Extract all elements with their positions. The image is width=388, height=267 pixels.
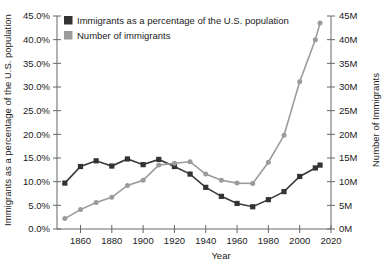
data-point xyxy=(156,163,161,168)
data-point xyxy=(94,158,99,163)
y-tick-label: 40.0% xyxy=(23,34,50,45)
x-tick-label: 1880 xyxy=(101,235,122,246)
data-point xyxy=(266,160,271,165)
data-point xyxy=(62,180,67,185)
chart-canvas: Immigrants as a percentage of the U.S. p… xyxy=(0,0,388,267)
data-point xyxy=(156,157,161,162)
x-tick-label: 1940 xyxy=(195,235,216,246)
data-point xyxy=(250,181,255,186)
y2-tick-label: 20M xyxy=(339,129,358,140)
data-point xyxy=(235,181,240,186)
data-point xyxy=(297,79,302,84)
x-tick-label: 1860 xyxy=(70,235,91,246)
data-point xyxy=(318,21,323,26)
data-point xyxy=(62,216,67,221)
y2-tick-label: 25M xyxy=(339,105,358,116)
y-tick-label: 15.0% xyxy=(23,152,50,163)
y-tick-label: 25.0% xyxy=(23,105,50,116)
y2-tick-label: 35M xyxy=(339,58,358,69)
x-tick-label: 1960 xyxy=(226,235,247,246)
y2-tick-label: 0M xyxy=(339,223,352,234)
data-point xyxy=(266,197,271,202)
data-point xyxy=(141,162,146,167)
left-y-axis: 0.0%5.0%10.0%15.0%20.0%25.0%30.0%35.0%40… xyxy=(23,10,61,234)
y2-tick-label: 40M xyxy=(339,34,358,45)
data-point xyxy=(94,200,99,205)
data-point xyxy=(203,172,208,177)
y-tick-label: 20.0% xyxy=(23,129,50,140)
data-point xyxy=(125,156,130,161)
chart-legend: Immigrants as a percentage of the U.S. p… xyxy=(64,15,289,41)
data-point xyxy=(250,204,255,209)
data-point xyxy=(109,195,114,200)
y-tick-label: 30.0% xyxy=(23,81,50,92)
x-axis-title: Year xyxy=(211,250,230,261)
x-axis: 186018801900192019401960198020002020 xyxy=(57,225,342,246)
data-point xyxy=(78,164,83,169)
y2-tick-label: 15M xyxy=(339,152,358,163)
data-point xyxy=(317,163,322,168)
legend-label: Number of immigrants xyxy=(77,30,171,41)
data-point xyxy=(141,178,146,183)
data-point xyxy=(282,133,287,138)
y2-axis-title: Number of Immigrants xyxy=(370,73,381,167)
legend-swatch xyxy=(64,16,73,25)
y2-tick-label: 30M xyxy=(339,81,358,92)
chart-series xyxy=(62,21,322,221)
y-axis-title: Immigrants as a percentage of the U.S. p… xyxy=(2,14,13,226)
data-point xyxy=(188,159,193,164)
x-tick-label: 1980 xyxy=(258,235,279,246)
x-tick-label: 1920 xyxy=(164,235,185,246)
data-point xyxy=(187,171,192,176)
legend-swatch xyxy=(64,31,73,40)
data-point xyxy=(125,183,130,188)
data-point xyxy=(172,161,177,166)
x-tick-label: 2000 xyxy=(289,235,310,246)
y-tick-label: 5.0% xyxy=(28,200,50,211)
y2-tick-label: 10M xyxy=(339,176,358,187)
data-point xyxy=(234,201,239,206)
data-point xyxy=(313,37,318,42)
data-point xyxy=(219,194,224,199)
legend-label: Immigrants as a percentage of the U.S. p… xyxy=(77,15,289,26)
y2-tick-label: 45M xyxy=(339,10,358,21)
y-tick-label: 45.0% xyxy=(23,10,50,21)
x-tick-label: 1900 xyxy=(133,235,154,246)
data-point xyxy=(297,174,302,179)
right-y-axis: 0M5M10M15M20M25M30M35M40M45M xyxy=(327,10,358,234)
data-point xyxy=(109,163,114,168)
x-tick-label: 2020 xyxy=(320,235,341,246)
data-point xyxy=(78,207,83,212)
immigration-chart: Immigrants as a percentage of the U.S. p… xyxy=(0,0,388,267)
data-point xyxy=(313,165,318,170)
y-tick-label: 10.0% xyxy=(23,176,50,187)
y-tick-label: 0.0% xyxy=(28,223,50,234)
data-point xyxy=(203,185,208,190)
data-point xyxy=(281,189,286,194)
y-tick-label: 35.0% xyxy=(23,58,50,69)
data-point xyxy=(219,178,224,183)
y2-tick-label: 5M xyxy=(339,200,352,211)
